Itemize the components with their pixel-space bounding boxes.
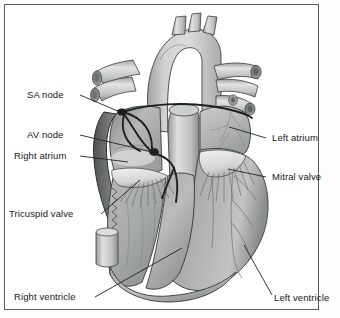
label-av-node: AV node: [27, 129, 63, 140]
label-mitral-valve: Mitral valve: [272, 171, 321, 182]
label-right-ventricle: Right ventricle: [14, 291, 76, 302]
label-left-ventricle: Left ventricle: [274, 292, 329, 303]
leader-left-ventricle: [244, 245, 272, 295]
label-sa-node: SA node: [27, 89, 64, 100]
label-left-atrium: Left atrium: [272, 132, 318, 143]
superior-vena-cava-group: [91, 60, 140, 102]
heart-diagram-figure: SA node AV node Right atrium Tricuspid v…: [0, 0, 340, 318]
label-right-atrium: Right atrium: [14, 150, 66, 161]
label-tricuspid-valve: Tricuspid valve: [9, 208, 74, 219]
